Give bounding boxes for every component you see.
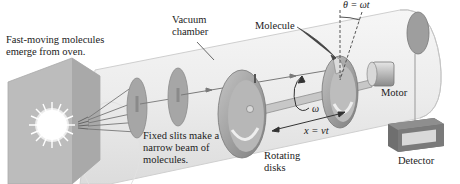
molecule-label: Molecule bbox=[255, 20, 295, 32]
detector-box bbox=[388, 118, 444, 152]
omega-label: ω bbox=[312, 103, 319, 115]
vacuum-chamber-label: Vacuum chamber bbox=[172, 14, 208, 38]
fixed-slits-label: Fixed slits make a narrow beam of molecu… bbox=[143, 130, 219, 166]
motor bbox=[367, 62, 394, 86]
detector-label: Detector bbox=[398, 155, 434, 167]
rotating-disks-label: Rotating disks bbox=[264, 150, 300, 174]
oven-label: Fast-moving molecules emerge from oven. bbox=[6, 34, 104, 58]
fixed-slit-disk-2 bbox=[168, 68, 188, 126]
distance-label: x = vt bbox=[304, 125, 329, 137]
theta-label: θ = ωt bbox=[343, 0, 370, 11]
rotating-disk-1 bbox=[218, 70, 266, 158]
oven bbox=[8, 58, 100, 184]
fixed-slit-disk-1 bbox=[127, 78, 147, 138]
motor-label: Motor bbox=[381, 87, 407, 99]
